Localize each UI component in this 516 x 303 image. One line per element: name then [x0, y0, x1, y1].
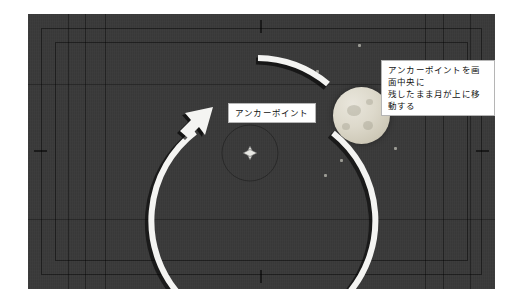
motion-arc: [151, 132, 375, 289]
anchor-point-callout: アンカーポイント: [228, 103, 316, 123]
curved-arrow-icon: [180, 107, 213, 138]
motion-arc-shadow: [148, 134, 372, 289]
motion-path-overlay: [28, 14, 495, 289]
anchor-point-diamond-icon: [243, 146, 257, 160]
illustration-canvas: アンカーポイント アンカーポイントを画面中央に 残したまま月が上に移動する: [0, 0, 516, 303]
composition-viewport: アンカーポイント アンカーポイントを画面中央に 残したまま月が上に移動する: [28, 14, 495, 289]
moon-motion-callout: アンカーポイントを画面中央に 残したまま月が上に移動する: [381, 60, 495, 116]
